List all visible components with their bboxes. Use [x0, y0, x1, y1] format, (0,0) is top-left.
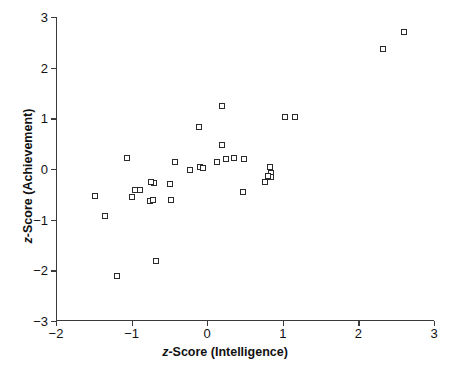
data-point [240, 189, 246, 195]
data-point [282, 114, 288, 120]
y-tick-neg2 [51, 270, 56, 271]
data-point [265, 173, 271, 179]
data-point [150, 197, 156, 203]
data-point [114, 273, 120, 279]
data-point [292, 114, 298, 120]
data-point [148, 179, 154, 185]
data-point [219, 142, 225, 148]
y-tick-0 [51, 169, 56, 170]
data-point [187, 167, 193, 173]
data-point [137, 187, 143, 193]
data-point [262, 179, 268, 185]
x-tick-label-1: 1 [268, 326, 298, 341]
data-point [168, 197, 174, 203]
x-tick-label-2: 2 [343, 326, 373, 341]
y-tick-1 [51, 118, 56, 119]
x-tick-label-neg1: −1 [117, 326, 147, 341]
data-point [196, 124, 202, 130]
data-point [153, 258, 159, 264]
y-axis-title-rest: -Score (Achievement) [21, 109, 35, 238]
data-point [92, 193, 98, 199]
data-point [124, 155, 130, 161]
x-tick-label-neg2: −2 [41, 326, 71, 341]
plot-area [56, 17, 434, 321]
y-axis-title: z-Score (Achievement) [21, 56, 35, 296]
data-point [214, 159, 220, 165]
data-point [200, 165, 206, 171]
x-tick-label-3: 3 [419, 326, 449, 341]
y-tick-3 [51, 17, 56, 18]
y-tick-label-3: 3 [22, 10, 48, 25]
x-tick-label-0: 0 [192, 326, 222, 341]
data-point [401, 29, 407, 35]
x-axis-title: z-Score (Intelligence) [0, 345, 450, 359]
y-axis-title-prefix: z [21, 237, 35, 243]
data-point [231, 155, 237, 161]
data-point [219, 103, 225, 109]
data-point [167, 181, 173, 187]
data-point [380, 46, 386, 52]
data-point [241, 156, 247, 162]
scatter-plot: 3 2 1 0 −1 −2 −3 −2 −1 0 1 2 3 z-Score (… [0, 0, 450, 370]
y-tick-neg1 [51, 220, 56, 221]
data-point [172, 159, 178, 165]
y-tick-2 [51, 68, 56, 69]
x-axis-title-rest: -Score (Intelligence) [168, 345, 287, 359]
data-point [129, 194, 135, 200]
data-point [102, 213, 108, 219]
data-point [223, 156, 229, 162]
